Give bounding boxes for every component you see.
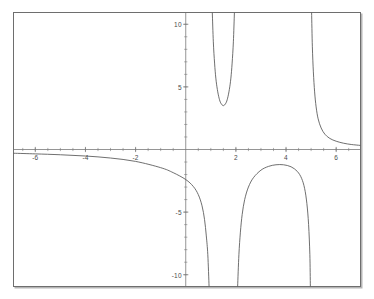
x-tick-label: -4: [82, 154, 88, 161]
axis-lines: [14, 13, 360, 286]
y-tick-label: 10: [164, 21, 182, 28]
x-tick-label: -2: [133, 154, 139, 161]
x-tick-label: -6: [32, 154, 38, 161]
plot-canvas: [0, 0, 374, 299]
y-tick-label: 5: [164, 83, 182, 90]
x-tick-label: 2: [234, 154, 238, 161]
x-tick-label: 6: [334, 154, 338, 161]
y-tick-label: -10: [164, 271, 182, 278]
x-tick-label: 4: [284, 154, 288, 161]
figure-container: -6-4-2246 -10-5510: [0, 0, 374, 299]
y-tick-label: -5: [164, 209, 182, 216]
